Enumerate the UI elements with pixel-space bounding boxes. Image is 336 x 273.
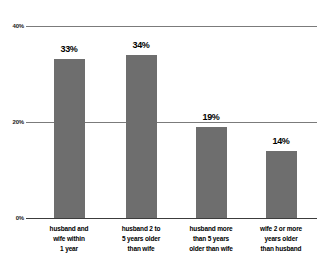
y-axis-tick-0: 0% xyxy=(2,215,24,221)
bar-value-label: 19% xyxy=(185,113,237,122)
category-label-line: husband 2 to xyxy=(102,224,180,234)
category-label-4: wife 2 or more years older than husband xyxy=(242,224,320,254)
category-label-line: 5 years older xyxy=(102,234,180,244)
category-label-line: husband more xyxy=(172,224,250,234)
axis-baseline-0 xyxy=(26,218,317,219)
y-axis-tick-40: 40% xyxy=(2,23,24,29)
category-label-line: 1 year xyxy=(30,244,108,254)
category-label-line: older than wife xyxy=(172,244,250,254)
category-label-line: than wife xyxy=(102,244,180,254)
bar-value-label: 34% xyxy=(115,41,167,50)
y-axis-tick-20: 20% xyxy=(2,119,24,125)
bar-husband-and-wife-within-1-year xyxy=(54,59,85,218)
category-label-line: than husband xyxy=(242,244,320,254)
bar-husband-more-than-5-years-older xyxy=(196,127,227,218)
category-label-line: husband and xyxy=(30,224,108,234)
bar-husband-2-to-5-years-older xyxy=(126,55,157,218)
category-label-line: wife within xyxy=(30,234,108,244)
category-label-line: than 5 years xyxy=(172,234,250,244)
plot-area: 40% 20% 0% 33% 34% 19% 14% husband and w… xyxy=(0,0,336,273)
category-label-line: wife 2 or more xyxy=(242,224,320,234)
category-label-2: husband 2 to 5 years older than wife xyxy=(102,224,180,254)
bar-wife-2-or-more-years-older xyxy=(266,151,297,218)
category-label-3: husband more than 5 years older than wif… xyxy=(172,224,250,254)
bar-value-label: 14% xyxy=(255,137,307,146)
bar-chart: 40% 20% 0% 33% 34% 19% 14% husband and w… xyxy=(0,0,336,273)
gridline-40 xyxy=(26,26,317,27)
bar-value-label: 33% xyxy=(43,45,95,54)
category-label-line: years older xyxy=(242,234,320,244)
category-label-1: husband and wife within 1 year xyxy=(30,224,108,254)
